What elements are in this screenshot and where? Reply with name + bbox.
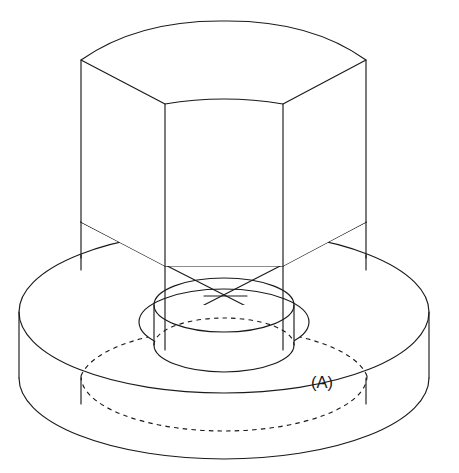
isometric-part-drawing: (A) bbox=[0, 0, 459, 473]
technical-drawing-canvas: (A) bbox=[0, 0, 459, 473]
hexagonal-head bbox=[81, 16, 366, 266]
callout-label-a: (A) bbox=[311, 373, 333, 391]
